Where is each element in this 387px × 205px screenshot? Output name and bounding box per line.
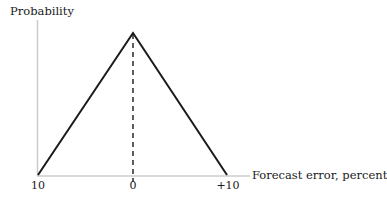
- x-tick-label-plus-ten: +10: [216, 180, 239, 191]
- y-axis-title: Probability: [10, 6, 74, 18]
- x-axis-title: Forecast error, percent: [252, 170, 387, 182]
- x-tick-label-minus-ten: 10: [31, 180, 45, 191]
- x-tick-label-zero: 0: [130, 180, 137, 191]
